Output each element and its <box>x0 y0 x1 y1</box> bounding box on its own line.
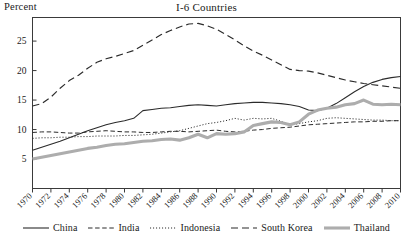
x-axis-tick-label: 1974 <box>51 190 71 210</box>
legend-swatch-longdash <box>231 224 257 232</box>
x-axis-tick-label: 1980 <box>107 191 126 210</box>
legend-label: Thailand <box>354 222 390 233</box>
x-axis-tick-label: 2002 <box>309 191 328 210</box>
chart-title: I-6 Countries <box>0 1 413 13</box>
x-axis-tick-label: 2008 <box>364 191 383 210</box>
x-axis-tick-label: 1998 <box>272 191 291 210</box>
line-chart-plot: 5101520251970197219741976197819801982198… <box>0 0 413 222</box>
legend-item-india: India <box>88 222 139 233</box>
legend-item-indonesia: Indonesia <box>150 222 220 233</box>
x-axis-tick-label: 1988 <box>180 191 199 210</box>
chart-figure: Percent I-6 Countries 510152025197019721… <box>0 0 413 240</box>
x-axis-tick-label: 1992 <box>217 191 236 210</box>
x-axis-tick-label: 1990 <box>199 191 218 210</box>
x-axis-tick-label: 2000 <box>291 191 310 210</box>
x-axis-tick-label: 1994 <box>235 190 255 210</box>
legend-label: China <box>53 222 77 233</box>
legend-swatch-thick-gray <box>324 224 350 232</box>
series-line-china <box>33 76 401 150</box>
legend-swatch-dotted <box>150 224 176 232</box>
legend-label: South Korea <box>261 222 312 233</box>
x-axis-tick-label: 1970 <box>15 191 34 210</box>
x-axis-tick-label: 2010 <box>383 191 402 210</box>
legend-item-china: China <box>23 222 77 233</box>
legend-item-south-korea: South Korea <box>231 222 312 233</box>
plot-frame <box>33 18 401 189</box>
x-axis-tick-label: 1976 <box>70 190 90 210</box>
legend-label: Indonesia <box>180 222 220 233</box>
series-line-south-korea <box>33 23 401 106</box>
y-axis-tick-label: 5 <box>22 154 27 164</box>
x-axis-tick-label: 2006 <box>346 190 366 210</box>
chart-legend: ChinaIndiaIndonesiaSouth KoreaThailand <box>0 222 413 233</box>
x-axis-tick-label: 1986 <box>162 190 182 210</box>
x-axis-tick-label: 1996 <box>254 190 274 210</box>
y-axis-tick-label: 25 <box>17 36 27 46</box>
legend-swatch-solid <box>23 224 49 232</box>
y-axis-tick-label: 20 <box>17 66 27 76</box>
legend-item-thailand: Thailand <box>324 222 390 233</box>
legend-label: India <box>118 222 139 233</box>
y-axis-tick-label: 15 <box>17 95 27 105</box>
x-axis-tick-label: 1972 <box>33 191 52 210</box>
x-axis-tick-label: 1984 <box>143 190 163 210</box>
x-axis-tick-label: 1978 <box>88 191 107 210</box>
legend-swatch-dashed <box>88 224 114 232</box>
y-axis-tick-label: 10 <box>17 125 27 135</box>
x-axis-tick-label: 2004 <box>327 190 347 210</box>
x-axis-tick-label: 1982 <box>125 191 144 210</box>
series-line-thailand <box>33 100 401 159</box>
